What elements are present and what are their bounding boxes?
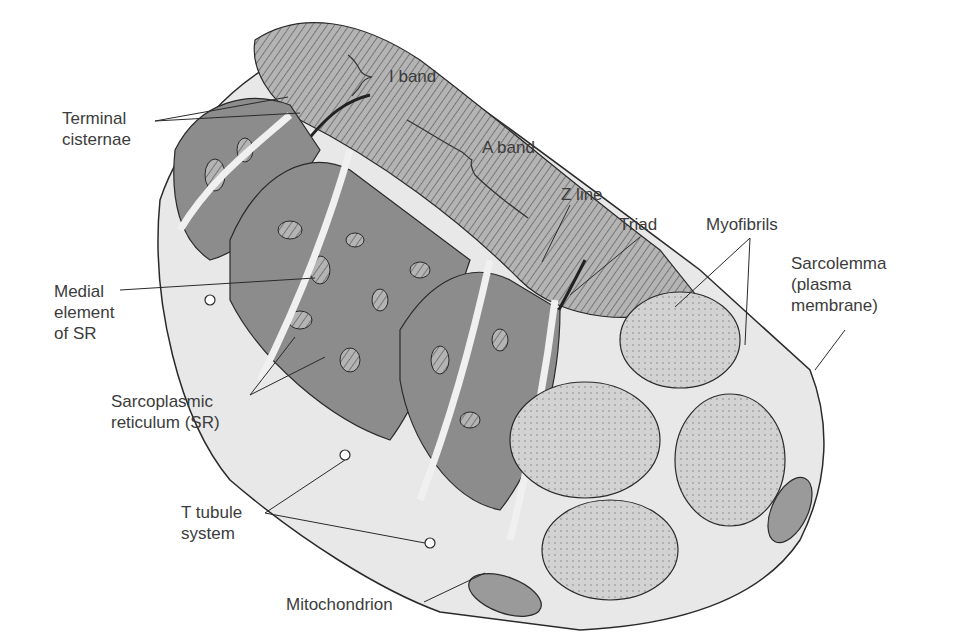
myofibril-section <box>675 394 785 526</box>
myofibril-section <box>542 500 678 600</box>
myofibril-section <box>620 292 740 388</box>
label-myofibrils: Myofibrils <box>706 214 778 235</box>
label-sarcoplasmic-reticulum: Sarcoplasmic reticulum (SR) <box>111 391 220 433</box>
muscle-fiber-diagram: Terminal cisternae I band A band Z line … <box>0 0 960 638</box>
label-medial-element-sr: Medial element of SR <box>54 281 114 344</box>
diagram-artwork <box>0 0 960 638</box>
label-a-band: A band <box>482 137 535 158</box>
label-z-line: Z line <box>561 184 603 205</box>
label-terminal-cisternae: Terminal cisternae <box>62 108 131 150</box>
label-i-band: I band <box>389 66 436 87</box>
label-sarcolemma: Sarcolemma (plasma membrane) <box>791 253 886 316</box>
label-triad: Triad <box>619 214 657 235</box>
label-t-tubule-system: T tubule system <box>181 502 242 544</box>
label-mitochondrion: Mitochondrion <box>286 594 393 615</box>
myofibril-section <box>510 382 660 498</box>
